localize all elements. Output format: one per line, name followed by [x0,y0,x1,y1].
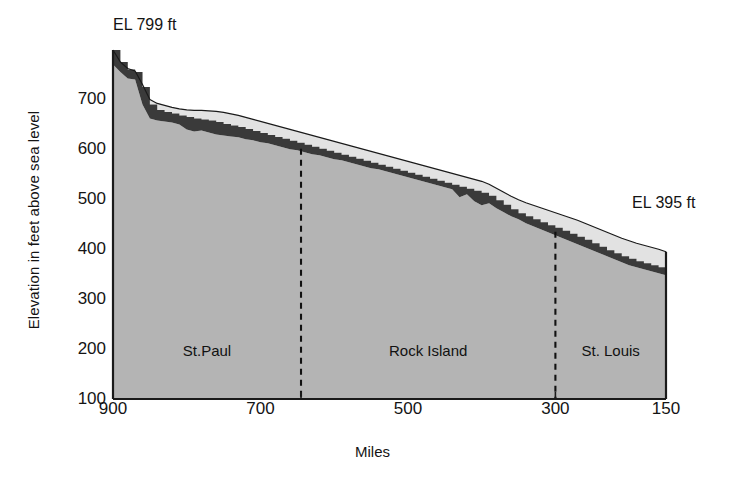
annotation-downstream-elevation: EL 395 ft [632,194,695,212]
x-axis-tick-labels: 900700500300150 [0,399,745,423]
x-axis-title: Miles [0,443,745,460]
x-tick-700: 700 [246,399,274,419]
region-label-st-paul: St.Paul [183,342,231,359]
x-tick-300: 300 [541,399,569,419]
region-label-rock-island: Rock Island [389,342,467,359]
x-tick-500: 500 [394,399,422,419]
river-profile-chart: Elevation in feet above sea level 700600… [0,0,745,485]
annotation-upstream-elevation: EL 799 ft [113,16,176,34]
region-label-st-louis: St. Louis [582,342,640,359]
x-tick-900: 900 [99,399,127,419]
x-tick-150: 150 [652,399,680,419]
